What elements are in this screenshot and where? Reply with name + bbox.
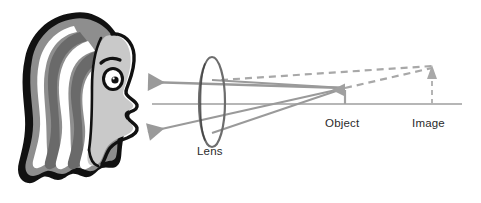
refracted-rays [148,80,345,133]
image-arrow-group [427,65,437,104]
refracted-ray-lower [148,88,345,132]
object-label: Object [325,117,360,129]
lens-group [199,57,225,147]
lens-label: Lens [197,145,223,157]
eye-pupil [111,76,118,83]
image-label: Image [412,117,445,129]
woman-head-illustration [18,12,137,183]
eye-highlight [113,77,115,79]
ray-diagram-canvas: Lens Object Image [0,0,481,203]
optics-diagram-svg: Lens Object Image [0,0,481,203]
virtual-ray-upper [221,66,432,80]
